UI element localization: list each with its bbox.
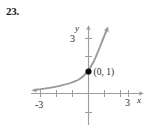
y-axis-label: y [74, 23, 79, 33]
graph-figure: (0, 1) y x 3 -3 3 [0, 0, 154, 134]
figure-panel: 23. [0, 0, 154, 134]
point-marker-0-1 [85, 68, 91, 74]
x-tick-label-3: 3 [125, 97, 130, 108]
point-label-0-1: (0, 1) [94, 67, 115, 78]
x-tick-label-minus-3: -3 [35, 99, 43, 110]
y-axis [85, 28, 92, 125]
y-tick-label-3: 3 [70, 33, 75, 44]
x-axis [31, 90, 141, 97]
x-axis-label: x [136, 95, 141, 105]
